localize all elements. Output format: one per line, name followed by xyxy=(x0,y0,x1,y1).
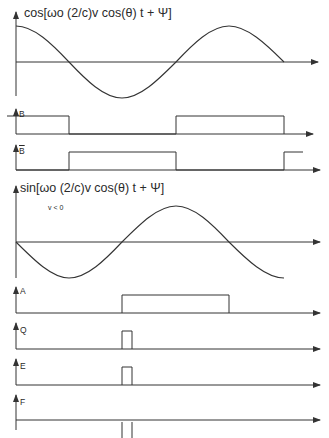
signal-f-plot xyxy=(16,395,320,438)
signal-e-plot xyxy=(16,359,320,385)
signal-b-bar-label: B xyxy=(19,146,25,156)
signal-a-plot xyxy=(16,287,320,313)
sin-waveform-plot xyxy=(16,186,320,278)
signal-b-plot xyxy=(7,109,313,134)
signal-q-plot xyxy=(16,323,320,349)
timing-diagram xyxy=(0,0,329,438)
signal-e-trace xyxy=(122,367,132,385)
signal-q-trace xyxy=(122,331,132,349)
signal-q-label: Q xyxy=(20,325,27,335)
velocity-condition-label: v < 0 xyxy=(48,204,63,211)
cos-waveform-plot xyxy=(16,12,318,98)
signal-a-label: A xyxy=(20,286,26,296)
signal-b-bar-trace xyxy=(16,152,303,170)
signal-e-label: E xyxy=(20,361,26,371)
sin-plot-label: sin[ωo (2/c)v cos(θ) t + Ψ] xyxy=(20,181,164,195)
signal-b-trace xyxy=(7,116,284,134)
signal-a-trace xyxy=(122,295,229,313)
signal-b-label: B xyxy=(19,109,25,119)
signal-f-label: F xyxy=(20,397,25,407)
cos-plot-label: cos[ωo (2/c)v cos(θ) t + Ψ] xyxy=(24,6,172,20)
signal-b-bar-plot xyxy=(16,145,320,170)
